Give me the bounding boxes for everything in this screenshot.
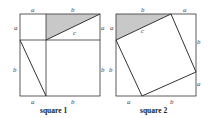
label-b: b — [71, 98, 75, 106]
label-a: a — [110, 24, 114, 32]
square-2: b a a b c b a a b square 2 — [109, 6, 201, 115]
square-1: a b a a c b b a b square 1 — [13, 6, 105, 115]
label-a: a — [31, 98, 35, 106]
label-b: b — [170, 98, 174, 106]
label-a: a — [31, 6, 35, 14]
pythagorean-proof-diagram: a b a a c b b a b square 1 b a a b c b a… — [0, 0, 209, 118]
label-b: b — [71, 6, 75, 14]
label-b: b — [13, 66, 17, 74]
caption-square-2: square 2 — [140, 106, 167, 115]
label-b: b — [109, 66, 113, 74]
label-a: a — [197, 80, 201, 88]
label-b: b — [101, 66, 105, 74]
caption-square-1: square 1 — [40, 106, 67, 115]
label-c: c — [141, 27, 145, 35]
label-b: b — [141, 6, 145, 14]
label-a: a — [101, 24, 105, 32]
label-b: b — [197, 38, 201, 46]
label-a: a — [127, 98, 131, 106]
label-c: c — [73, 29, 77, 37]
label-a: a — [183, 6, 187, 14]
label-a: a — [14, 24, 18, 32]
